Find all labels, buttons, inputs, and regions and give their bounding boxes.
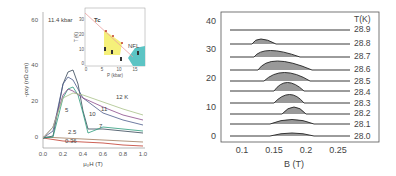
svg-text:28.3: 28.3: [354, 98, 371, 108]
svg-text:28.8: 28.8: [354, 38, 371, 48]
svg-text:0.2: 0.2: [59, 151, 68, 157]
svg-text:0.36: 0.36: [65, 138, 77, 144]
svg-text:30: 30: [79, 17, 85, 22]
right-x-label: B (T): [284, 159, 304, 169]
svg-text:5: 5: [101, 67, 104, 72]
left-x-ticks: 0.0 0.2 0.4 0.6 0.8 1.0: [39, 151, 148, 157]
svg-text:28.2: 28.2: [354, 108, 371, 118]
svg-text:10: 10: [116, 67, 122, 72]
svg-text:0.0: 0.0: [39, 151, 48, 157]
left-y-ticks: 0 20 40 60: [31, 17, 38, 140]
svg-text:1.0: 1.0: [139, 151, 148, 157]
svg-text:0.15: 0.15: [265, 145, 283, 155]
pressure-annotation: 11.4 kbar: [48, 17, 73, 23]
hall-resistivity-panel: 0 20 40 60 0.0 0.2 0.4 0.6 0.8 1.0 μ₀H (…: [0, 0, 160, 176]
left-y-label: -ρxy (nΩ cm): [23, 63, 29, 98]
svg-text:30: 30: [206, 44, 216, 54]
svg-text:10: 10: [89, 111, 96, 117]
svg-text:2.5: 2.5: [68, 129, 77, 135]
svg-text:0: 0: [85, 67, 88, 72]
temperature-labels: T(K) 28.9 28.8 28.7 28.6 28.5 28.4 28.3 …: [354, 14, 371, 141]
svg-text:12 K: 12 K: [116, 94, 128, 100]
svg-text:0.6: 0.6: [99, 151, 108, 157]
svg-text:28.5: 28.5: [354, 76, 371, 86]
svg-text:7: 7: [99, 123, 103, 129]
svg-text:60: 60: [31, 17, 38, 23]
svg-text:0: 0: [211, 131, 216, 141]
svg-text:20: 20: [79, 32, 85, 37]
svg-text:T (K): T (K): [74, 32, 79, 42]
svg-text:P (kbar): P (kbar): [107, 73, 123, 78]
phase-diagram-inset: Tc NFL 0 10 20 30 0 5 10 15 P (kbar) T (…: [74, 8, 145, 78]
svg-text:0: 0: [81, 61, 84, 66]
svg-text:10: 10: [79, 47, 85, 52]
svg-text:20: 20: [31, 98, 38, 104]
svg-text:28.7: 28.7: [354, 51, 371, 61]
svg-text:15: 15: [132, 67, 138, 72]
svg-text:11: 11: [101, 106, 108, 112]
hall-curves: [43, 70, 143, 146]
svg-text:28.9: 28.9: [354, 24, 371, 34]
svg-text:0.2: 0.2: [300, 145, 313, 155]
svg-text:40: 40: [206, 16, 216, 26]
svg-text:5: 5: [65, 107, 69, 113]
curve-labels: 12 K 11 10 7 5 2.5 0.36: [65, 94, 128, 144]
svg-text:40: 40: [31, 62, 38, 68]
svg-text:28.4: 28.4: [354, 87, 371, 97]
svg-text:28.6: 28.6: [354, 64, 371, 74]
right-y-ticks: 0 10 20 30 40: [206, 16, 216, 141]
nfl-label: NFL: [128, 43, 140, 49]
left-x-label: μ₀H (T): [83, 161, 103, 167]
svg-text:0.25: 0.25: [329, 145, 347, 155]
svg-text:0: 0: [35, 134, 39, 140]
tc-label: Tc: [94, 17, 101, 23]
svg-text:0.4: 0.4: [79, 151, 88, 157]
svg-text:0.8: 0.8: [119, 151, 128, 157]
svg-text:0.1: 0.1: [236, 145, 249, 155]
legend-title: T(K): [354, 14, 371, 24]
svg-text:28.0: 28.0: [354, 131, 371, 141]
svg-text:10: 10: [206, 102, 216, 112]
svg-text:28.1: 28.1: [354, 119, 371, 129]
right-x-ticks: 0.1 0.15 0.2 0.25: [236, 145, 347, 155]
svg-text:20: 20: [206, 73, 216, 83]
delta-resistivity-panel: 0 10 20 30 40 0.1 0.15 0.2 0.25 B (T) Δρ…: [200, 0, 396, 176]
